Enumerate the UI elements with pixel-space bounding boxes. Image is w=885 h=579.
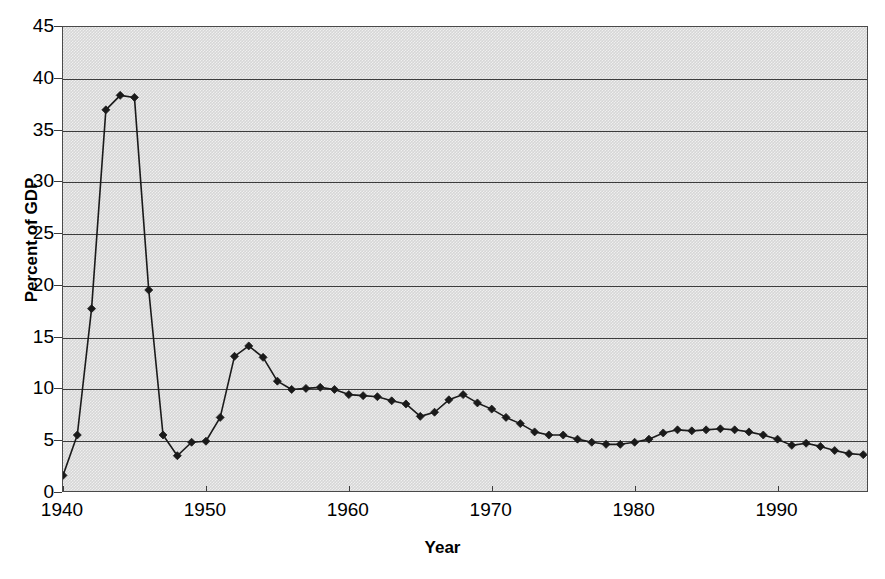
x-tick-label: 1960 bbox=[308, 500, 388, 519]
x-axis-tick-labels: 194019501960197019801990 bbox=[0, 0, 885, 579]
x-tick-label: 1980 bbox=[594, 500, 674, 519]
x-tick-label: 1990 bbox=[737, 500, 817, 519]
y-axis-tick-marks bbox=[53, 0, 63, 579]
x-tick-label: 1970 bbox=[451, 500, 531, 519]
x-axis-title: Year bbox=[0, 538, 885, 558]
chart-container: Percent of GDP 051015202530354045 194019… bbox=[0, 0, 885, 579]
x-tick-label: 1950 bbox=[165, 500, 245, 519]
